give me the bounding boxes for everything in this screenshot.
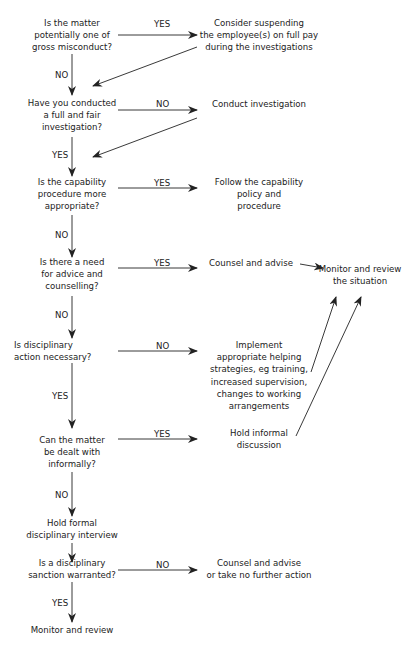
action-hold-informal: Hold informal discussion [196,427,322,451]
action-conduct-investigation: Conduct investigation [196,98,322,110]
action-consider-suspending: Consider suspending the employee(s) on f… [196,17,322,54]
action-hold-formal: Hold formal disciplinary interview [14,517,130,541]
decision-deal-informally: Can the matter be dealt with informally? [20,434,124,471]
decision-disciplinary-action: Is disciplinary action necessary? [14,339,104,363]
decision-full-investigation: Have you conducted a full and fair inves… [20,97,124,134]
label-q5-yes: YES [52,391,68,401]
decision-capability-procedure: Is the capability procedure more appropr… [20,176,124,213]
decision-advice-counselling: Is there a need for advice and counselli… [20,256,124,293]
label-q7-no: NO [156,560,169,570]
label-q6-no: NO [55,490,68,500]
action-follow-capability: Follow the capability policy and procedu… [196,176,322,213]
action-monitor-review-situation: Monitor and review the situation [308,263,412,287]
action-implement-strategies: Implement appropriate helping strategies… [196,339,322,412]
action-counsel-advise: Counsel and advise [196,257,306,269]
label-q3-no: NO [55,230,68,240]
decision-gross-misconduct: Is the matter potentially one of gross m… [20,17,124,54]
label-q3-yes: YES [154,178,170,188]
action-counsel-or-no-action: Counsel and advise or take no further ac… [196,557,322,581]
label-q4-no: NO [55,310,68,320]
label-q5-no: NO [156,341,169,351]
action-monitor-review-final: Monitor and review [20,624,124,636]
label-q2-no: NO [156,99,169,109]
decision-sanction-warranted: Is a disciplinary sanction warranted? [18,557,126,581]
label-q6-yes: YES [154,429,170,439]
label-q7-yes: YES [52,598,68,608]
label-q2-yes: YES [52,150,68,160]
label-q1-no: NO [55,70,68,80]
label-q1-yes: YES [154,19,170,29]
label-q4-yes: YES [154,258,170,268]
